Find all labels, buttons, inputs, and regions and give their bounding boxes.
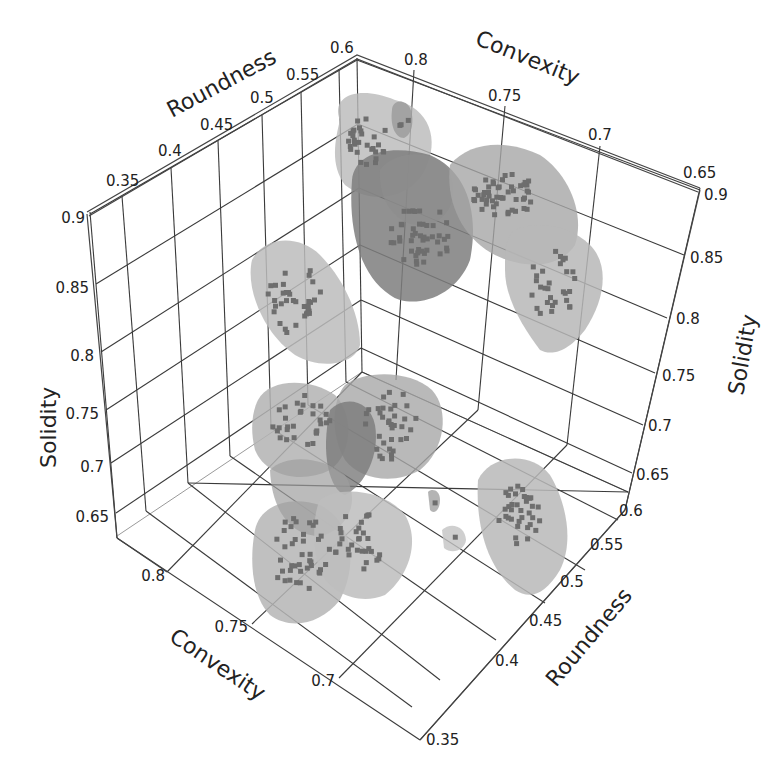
data-point [311,411,316,416]
data-point [282,544,287,549]
data-point [510,172,515,177]
data-point [418,233,423,238]
data-point [350,133,355,138]
svg-text:0.8: 0.8 [404,51,428,69]
data-point [361,566,366,571]
data-point [397,235,402,240]
data-point [408,427,413,432]
data-point [531,264,536,269]
data-point [318,404,323,409]
data-point [374,447,379,452]
data-point [500,177,505,182]
data-point [272,309,277,314]
data-point [553,249,558,254]
svg-text:0.4: 0.4 [158,142,182,160]
data-point [537,518,542,523]
data-point [364,117,369,122]
data-point [409,238,414,243]
data-point [483,178,488,183]
data-point [305,442,310,447]
data-point [417,209,422,214]
data-point [294,519,299,524]
data-point [293,323,298,328]
data-point [486,184,491,189]
data-point [515,524,520,529]
data-point [364,514,369,519]
svg-text:0.8: 0.8 [141,567,165,585]
axis-title-roundness-bottom: Roundness [541,583,637,691]
data-point [401,257,406,262]
data-point [349,543,354,548]
data-point [364,549,369,554]
svg-text:0.6: 0.6 [619,502,643,520]
data-point [530,293,535,298]
data-point [435,240,440,245]
data-point [346,547,351,552]
svg-text:0.8: 0.8 [70,347,94,365]
data-point [301,539,306,544]
svg-text:0.65: 0.65 [636,466,669,484]
data-point [275,428,280,433]
data-point [444,246,449,251]
data-point [339,530,344,535]
svg-text:0.75: 0.75 [662,367,695,385]
data-point [317,571,322,576]
data-point [564,298,569,303]
svg-text:0.35: 0.35 [426,731,459,749]
data-point [337,541,342,546]
data-point [572,276,577,281]
data-point [278,558,283,563]
data-point [381,441,386,446]
svg-text:0.75: 0.75 [215,618,248,636]
data-point [377,552,382,557]
data-point [355,548,360,553]
data-point [406,118,411,123]
data-point [414,262,419,267]
data-point [270,424,275,429]
data-point [272,298,277,303]
data-point [292,563,297,568]
data-point [506,190,511,195]
data-point [290,541,295,546]
data-point [374,558,379,563]
data-point [402,209,407,214]
data-point [376,406,381,411]
data-point [486,190,491,195]
data-point [402,417,407,422]
data-point [492,212,497,217]
data-point [288,568,293,573]
data-point [387,447,392,452]
data-point [528,200,533,205]
data-point [570,269,575,274]
roundness-top-ticks: 0.35 0.4 0.45 0.5 0.55 0.6 [106,39,354,190]
data-point [343,514,348,519]
3d-scatter-chart: 0.35 0.4 0.45 0.5 0.55 0.6 0.8 0.75 0.7 … [0,0,770,762]
data-point [510,502,515,507]
data-point [526,179,531,184]
svg-text:0.75: 0.75 [66,405,99,423]
data-point [340,536,345,541]
svg-text:0.7: 0.7 [648,417,672,435]
data-point [282,528,287,533]
data-point [357,125,362,130]
data-point [301,532,306,537]
data-point [308,268,313,273]
data-point [308,552,313,557]
data-point [364,162,369,167]
data-point [291,424,296,429]
svg-text:0.55: 0.55 [590,536,623,554]
data-point [410,233,415,238]
data-point [442,237,447,242]
data-point [534,273,539,278]
data-point [361,531,366,536]
data-point [453,535,458,540]
data-point [293,299,298,304]
data-point [513,209,518,214]
data-point [376,142,381,147]
data-point [415,250,420,255]
data-point [274,537,279,542]
data-point [356,526,361,531]
data-point [409,249,414,254]
data-point [399,222,404,227]
data-point [318,421,323,426]
